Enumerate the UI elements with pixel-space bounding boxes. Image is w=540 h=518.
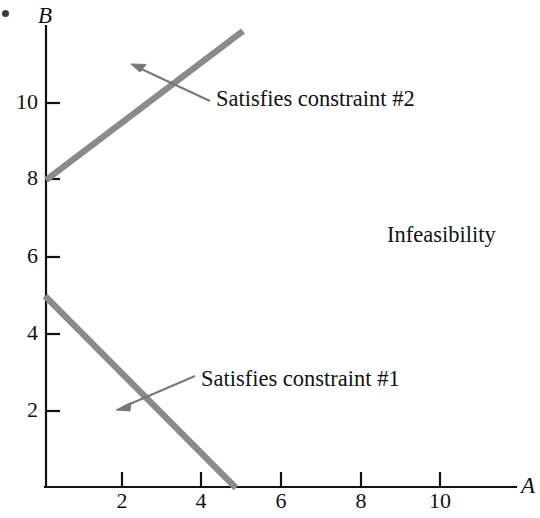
constraint-1-annotation-label: Satisfies constraint #1 [201, 368, 400, 391]
y-tick-label-8: 8 [0, 167, 38, 189]
constraint-2-line [46, 31, 243, 180]
y-tick-label-2: 2 [0, 399, 38, 421]
y-axis-label: B [38, 4, 52, 27]
x-tick-label-10: 10 [420, 490, 460, 512]
x-axis-label: A [521, 474, 535, 497]
constraint-2-arrow [131, 64, 210, 101]
plot-canvas [0, 0, 540, 518]
constraint-1-line [45, 296, 236, 488]
constraint-2-annotation-label: Satisfies constraint #2 [216, 88, 415, 111]
y-axis-ticks [46, 103, 60, 411]
infeasibility-annotation-label: Infeasibility [387, 224, 496, 247]
x-tick-label-6: 6 [261, 490, 301, 512]
x-axis-ticks [122, 472, 440, 487]
x-tick-label-4: 4 [181, 490, 221, 512]
y-tick-label-10: 10 [0, 91, 38, 113]
x-tick-label-2: 2 [102, 490, 142, 512]
y-tick-label-6: 6 [0, 245, 38, 267]
x-tick-label-8: 8 [341, 490, 381, 512]
y-tick-label-4: 4 [0, 322, 38, 344]
linear-programming-figure: B A 10 8 6 4 2 2 4 6 8 10 Satisfies cons… [0, 0, 540, 518]
